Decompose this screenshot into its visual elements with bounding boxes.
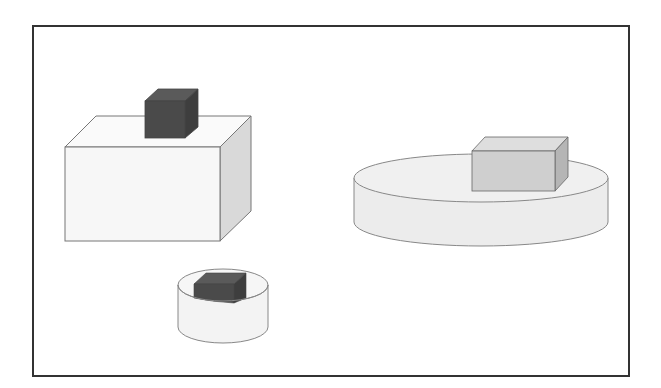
small-dark-box (194, 273, 246, 303)
dark-cube-front (145, 101, 185, 138)
gray-box (472, 137, 568, 191)
dark-cube (145, 89, 198, 138)
large-box-front (65, 147, 220, 241)
gray-box-top (472, 137, 568, 151)
gray-box-front (472, 151, 555, 191)
diagram-canvas (0, 0, 661, 388)
